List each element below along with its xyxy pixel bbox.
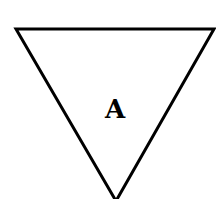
diagram-canvas: A — [0, 0, 216, 199]
triangle-label: A — [104, 94, 126, 124]
